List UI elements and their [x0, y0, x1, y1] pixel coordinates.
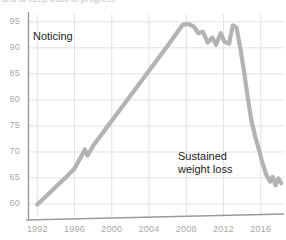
- x-axis-line: [26, 214, 284, 220]
- data-line-weight: [37, 24, 281, 205]
- annotation-sustained-line2: weight loss: [178, 163, 232, 176]
- x-tick-label: 1996: [60, 224, 90, 234]
- y-tick-label: 70: [2, 146, 20, 156]
- y-tick-label: 90: [2, 42, 20, 52]
- x-tick-label: 2004: [134, 224, 164, 234]
- y-tick-label: 85: [2, 68, 20, 78]
- annotation-sustained-line1: Sustained: [178, 150, 232, 163]
- y-tick-label: 80: [2, 94, 20, 104]
- y-tick-label: 65: [2, 172, 20, 182]
- x-tick-label: 1992: [22, 224, 52, 234]
- x-tick-label: 2012: [208, 224, 238, 234]
- y-tick-label: 75: [2, 120, 20, 130]
- x-tick-label: 2008: [171, 224, 201, 234]
- annotation-noticing: Noticing: [33, 30, 73, 43]
- annotation-sustained-weight-loss: Sustained weight loss: [178, 150, 232, 176]
- y-tick-label: 60: [2, 198, 20, 208]
- chart-figure: and to keep track of progress Noticing S…: [0, 0, 286, 240]
- x-tick-label: 2000: [97, 224, 127, 234]
- y-tick-label: 95: [2, 16, 20, 26]
- x-tick-label: 2016: [246, 224, 276, 234]
